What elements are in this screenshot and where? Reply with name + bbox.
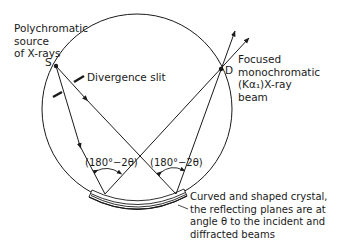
incident-rays [56, 66, 176, 194]
crystal-label: Curved and shaped crystal, the reflectin… [190, 191, 327, 241]
diffracted-rays [105, 31, 249, 194]
point-s-label: S [45, 56, 52, 68]
angle-label-left: (180°−2θ) [85, 157, 138, 169]
beam-label: Focused monochromatic (Kα₁)X-ray beam [238, 53, 320, 103]
source-label: Polychromatic source of X-rays [14, 22, 88, 60]
crystal-leader-line [178, 205, 188, 209]
angle-label-right: (180°−2θ) [150, 157, 203, 169]
point-d-label: D [225, 64, 233, 76]
focus-point [219, 67, 223, 71]
source-point [54, 64, 58, 68]
divergence-slit-label: Divergence slit [87, 71, 166, 84]
